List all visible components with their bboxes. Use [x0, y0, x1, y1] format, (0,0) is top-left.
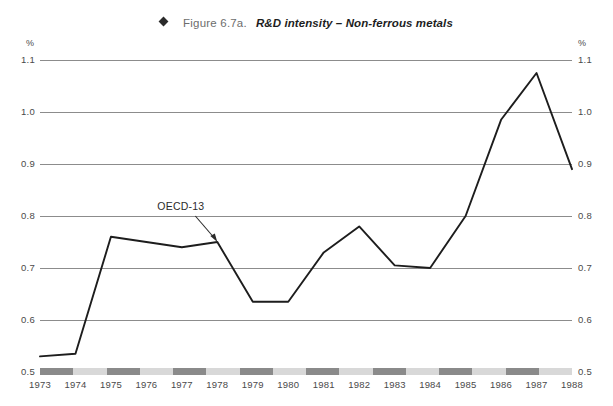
chart-header: Figure 6.7a.R&D intensity – Non-ferrous … — [0, 13, 613, 31]
x-axis-tick-1981: 1981 — [313, 379, 335, 390]
x-axis-tick-1978: 1978 — [206, 379, 228, 390]
y-axis-tick-right: 1.0 — [578, 106, 592, 117]
y-axis-tick-right: 0.9 — [578, 158, 592, 169]
x-axis-tick-1979: 1979 — [242, 379, 264, 390]
x-axis-band-segment — [107, 368, 140, 375]
x-axis-tick-1984: 1984 — [419, 379, 441, 390]
x-axis-band-segment — [173, 368, 206, 375]
x-axis-band-segment — [206, 368, 239, 375]
x-axis-tick-1982: 1982 — [348, 379, 370, 390]
x-axis-tick-1987: 1987 — [526, 379, 548, 390]
x-axis-band-segment — [240, 368, 273, 375]
x-axis-band-segment — [506, 368, 539, 375]
x-axis-band-segment — [339, 368, 372, 375]
y-axis-tick-right: 0.7 — [578, 262, 592, 273]
diamond-bullet-icon — [159, 17, 169, 27]
x-axis-tick-1986: 1986 — [490, 379, 512, 390]
x-axis-tick-1980: 1980 — [277, 379, 299, 390]
x-axis-tick-1975: 1975 — [100, 379, 122, 390]
series-annotation-label: OECD-13 — [157, 200, 204, 212]
x-axis-band-segment — [472, 368, 505, 375]
x-axis-band-segment — [406, 368, 439, 375]
x-axis-band-segment — [40, 368, 73, 375]
y-axis-tick-left: 1.0 — [21, 106, 35, 117]
x-axis-band-segment — [373, 368, 406, 375]
y-axis-tick-left: 0.8 — [21, 210, 35, 221]
figure-number: Figure 6.7a. — [183, 17, 247, 29]
y-axis-tick-right: 1.1 — [578, 54, 592, 65]
y-axis-unit-left: % — [26, 38, 34, 48]
y-axis-tick-right: 0.5 — [578, 366, 592, 377]
x-axis-tick-1983: 1983 — [384, 379, 406, 390]
y-axis-tick-left: 1.1 — [21, 54, 35, 65]
x-axis-band-segment — [439, 368, 472, 375]
series-oecd-13 — [40, 60, 572, 372]
x-axis-band-segment — [306, 368, 339, 375]
y-axis-tick-left: 0.5 — [21, 366, 35, 377]
x-axis-labels: 1973197419751976197719781979198019811982… — [40, 379, 572, 393]
x-axis-band — [40, 368, 572, 375]
y-axis-tick-left: 0.6 — [21, 314, 35, 325]
x-axis-tick-1973: 1973 — [29, 379, 51, 390]
x-axis-tick-1988: 1988 — [561, 379, 583, 390]
x-axis-band-segment — [140, 368, 173, 375]
y-axis-unit-right: % — [578, 38, 586, 48]
y-axis-tick-left: 0.9 — [21, 158, 35, 169]
y-axis-tick-right: 0.8 — [578, 210, 592, 221]
x-axis-tick-1977: 1977 — [171, 379, 193, 390]
x-axis-tick-1974: 1974 — [64, 379, 86, 390]
x-axis-band-segment — [73, 368, 106, 375]
y-axis-tick-right: 0.6 — [578, 314, 592, 325]
x-axis-tick-1976: 1976 — [135, 379, 157, 390]
series-line — [40, 73, 572, 356]
x-axis-band-segment — [273, 368, 306, 375]
x-axis-tick-1985: 1985 — [455, 379, 477, 390]
annotation-arrow-icon — [195, 216, 217, 242]
page-title: R&D intensity – Non-ferrous metals — [256, 17, 453, 29]
x-axis-band-segment — [539, 368, 572, 375]
y-axis-tick-left: 0.7 — [21, 262, 35, 273]
